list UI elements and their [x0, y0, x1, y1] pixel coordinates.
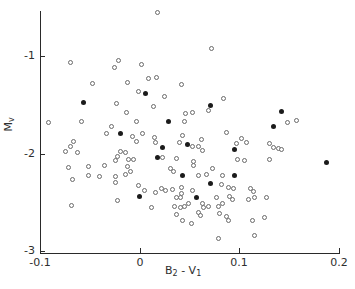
data-point-open [128, 169, 133, 174]
data-point-open [252, 195, 257, 200]
data-point-open [174, 212, 179, 217]
data-point-open [86, 164, 91, 169]
data-point-filled [324, 160, 329, 165]
data-point-open [179, 82, 184, 87]
data-point-open [206, 204, 211, 209]
data-point-open [246, 197, 251, 202]
data-point-open [285, 120, 290, 125]
data-point-open [75, 150, 80, 155]
data-point-filled [208, 181, 213, 186]
data-point-open [136, 89, 141, 94]
data-point-open [221, 96, 226, 101]
data-point-filled [118, 131, 123, 136]
x-tick-label: 0 [123, 257, 157, 269]
data-point-filled [271, 124, 276, 129]
data-point-filled [160, 145, 165, 150]
data-point-open [209, 46, 214, 51]
data-point-open [104, 131, 109, 136]
data-point-open [86, 173, 91, 178]
data-point-open [113, 158, 118, 163]
data-point-open [242, 158, 247, 163]
data-point-open [97, 174, 102, 179]
data-point-open [178, 195, 183, 200]
data-point-open [66, 165, 71, 170]
data-point-open [125, 80, 130, 85]
data-point-open [267, 157, 272, 162]
data-point-open [162, 94, 167, 99]
data-point-open [139, 62, 144, 67]
data-point-open [231, 186, 236, 191]
data-point-open [224, 130, 229, 135]
data-point-open [219, 182, 224, 187]
x-tick-label: -0.1 [23, 257, 57, 269]
data-point-open [252, 233, 257, 238]
data-point-open [155, 10, 160, 15]
data-point-open [163, 188, 168, 193]
data-point-open [124, 110, 129, 115]
data-point-filled [166, 119, 171, 124]
data-point-filled [81, 100, 86, 105]
data-point-open [294, 118, 299, 123]
data-point-open [216, 236, 221, 241]
x-tick-mark [140, 248, 141, 253]
data-point-open [179, 185, 184, 190]
data-point-open [189, 221, 194, 226]
data-point-open [196, 173, 201, 178]
data-point-open [239, 136, 244, 141]
data-point-open [191, 163, 196, 168]
data-point-open [279, 147, 284, 152]
data-point-open [262, 215, 267, 220]
data-point-open [186, 201, 191, 206]
data-point-open [206, 108, 211, 113]
data-point-open [79, 119, 84, 124]
data-point-open [90, 81, 95, 86]
data-point-open [68, 144, 73, 149]
data-point-open [180, 133, 185, 138]
data-point-open [177, 140, 182, 145]
data-point-filled [208, 103, 213, 108]
data-point-open [70, 177, 75, 182]
data-point-open [214, 195, 219, 200]
data-point-open [160, 155, 165, 160]
x-axis-title: B2 - V1 [165, 264, 201, 277]
data-point-open [69, 203, 74, 208]
y-tick-mark [40, 56, 45, 57]
data-point-open [171, 169, 176, 174]
data-point-open [172, 204, 177, 209]
data-point-open [264, 195, 269, 200]
x-tick-mark [339, 248, 340, 253]
data-point-open [125, 164, 130, 169]
data-point-open [210, 166, 215, 171]
data-point-open [190, 188, 195, 193]
data-point-open [112, 65, 117, 70]
data-point-open [136, 183, 141, 188]
data-point-open [244, 140, 249, 145]
data-point-filled [232, 147, 237, 152]
data-point-open [71, 139, 76, 144]
data-point-open [174, 156, 179, 161]
data-point-open [116, 58, 121, 63]
data-point-open [180, 218, 185, 223]
data-point-open [140, 131, 145, 136]
data-point-open [170, 187, 175, 192]
data-point-open [131, 157, 136, 162]
data-point-open [146, 76, 151, 81]
data-point-open [200, 148, 205, 153]
data-point-open [220, 201, 225, 206]
data-point-open [142, 188, 147, 193]
data-point-open [226, 218, 231, 223]
data-point-filled [155, 155, 160, 160]
data-point-open [115, 198, 120, 203]
y-tick-label: -3 [13, 245, 35, 257]
data-point-filled [143, 91, 148, 96]
y-tick-mark [40, 154, 45, 155]
data-point-filled [232, 173, 237, 178]
data-point-open [271, 145, 276, 150]
scatter-plot-figure: -0.1 0 0.1 0.2 -1 -2 -3 B2 - V1 Mv [0, 0, 355, 289]
data-point-open [109, 124, 114, 129]
data-point-filled [137, 194, 142, 199]
data-point-open [134, 139, 139, 144]
data-point-open [153, 140, 158, 145]
data-point-filled [180, 173, 185, 178]
data-point-open [151, 104, 156, 109]
